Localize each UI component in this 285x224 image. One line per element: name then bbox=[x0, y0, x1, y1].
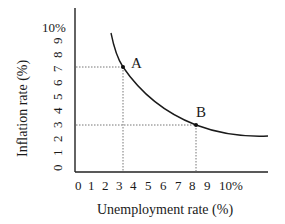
y-tick: 2 bbox=[50, 136, 65, 143]
point-b-marker bbox=[194, 123, 198, 127]
x-tick: 1 bbox=[88, 178, 95, 193]
x-tick: 3 bbox=[116, 178, 123, 193]
x-tick: 6 bbox=[160, 178, 167, 193]
y-tick: 3 bbox=[50, 122, 65, 129]
point-a-label: A bbox=[131, 55, 142, 71]
y-tick: 1 bbox=[50, 150, 65, 157]
point-a-marker bbox=[121, 65, 125, 69]
y-tick: 6 bbox=[50, 79, 65, 86]
y-tick: 7 bbox=[50, 65, 65, 72]
y-tick-top: 10% bbox=[42, 20, 66, 35]
y-axis-title: Inflation rate (%) bbox=[15, 59, 31, 157]
x-tick: 4 bbox=[130, 178, 137, 193]
x-tick: 8 bbox=[189, 178, 196, 193]
x-tick: 7 bbox=[175, 178, 182, 193]
y-tick-labels: 0 1 2 3 4 5 6 7 8 9 10% bbox=[42, 20, 66, 171]
phillips-curve bbox=[111, 33, 268, 136]
x-tick: 5 bbox=[145, 178, 152, 193]
x-tick: 10% bbox=[219, 178, 243, 193]
x-tick-labels: 0 1 2 3 4 5 6 7 8 9 10% bbox=[75, 178, 243, 193]
x-tick: 9 bbox=[204, 178, 211, 193]
y-tick: 4 bbox=[50, 107, 65, 114]
y-tick: 9 bbox=[50, 38, 65, 45]
phillips-curve-chart: A B 0 1 2 3 4 5 6 7 8 9 10% 0 1 2 3 4 5 … bbox=[0, 0, 285, 224]
x-tick: 2 bbox=[102, 178, 109, 193]
y-tick: 8 bbox=[50, 52, 65, 59]
x-axis-title: Unemployment rate (%) bbox=[97, 202, 233, 218]
x-tick: 0 bbox=[75, 178, 82, 193]
y-tick: 0 bbox=[50, 165, 65, 172]
point-b-label: B bbox=[196, 104, 206, 120]
y-tick: 5 bbox=[50, 94, 65, 101]
